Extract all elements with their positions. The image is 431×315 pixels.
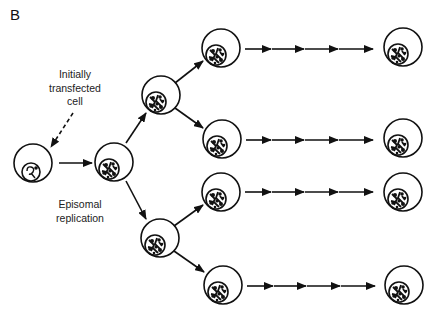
arrow-gen1-to-top (126, 113, 146, 143)
row3-start-cell (202, 173, 240, 211)
gen2-bottom-cell (141, 219, 179, 257)
label-line: cell (35, 95, 115, 109)
initial-transfected-cell (14, 144, 52, 182)
arrow-bottom-to-row4 (174, 251, 204, 272)
episomal-replication-label: Episomal replication (40, 198, 120, 225)
initially-transfected-cell-label: Initially transfected cell (35, 68, 115, 109)
row2-start-cell (203, 120, 241, 158)
dashed-annotation-arrow (51, 113, 73, 147)
gen2-top-cell (142, 76, 180, 114)
row2-end-cell (384, 119, 422, 157)
row4-start-cell (204, 266, 242, 304)
label-line: replication (40, 212, 120, 226)
label-line: Episomal (40, 198, 120, 212)
arrow-top-to-row2 (175, 108, 203, 128)
arrow-gen1-to-bottom (126, 181, 146, 219)
arrow-top-to-row1 (175, 61, 203, 83)
label-line: Initially (35, 68, 115, 82)
row4-end-cell (385, 266, 423, 304)
diagram-graphic (0, 0, 431, 315)
panel-label: B (10, 6, 20, 23)
label-line: transfected (35, 82, 115, 96)
episomal-replication-diagram: B Initially transfected cell Episomal re… (0, 0, 431, 315)
gen1-cell (95, 143, 133, 181)
arrow-bottom-to-row3 (174, 205, 203, 226)
row1-end-cell (384, 28, 422, 66)
row1-start-cell (202, 29, 240, 67)
row3-end-cell (384, 173, 422, 211)
